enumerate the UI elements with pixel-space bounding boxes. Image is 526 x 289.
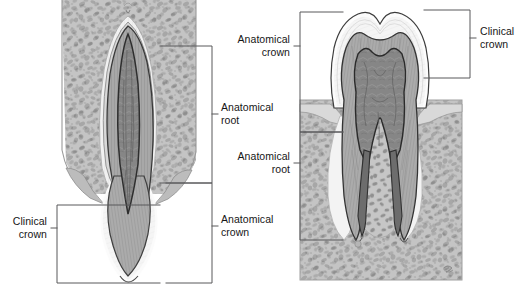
label-right-anatomical-crown: Anatomical crown [224, 33, 290, 58]
label-left-anatomical-root: Anatomical root [221, 101, 293, 126]
label-left-clinical-crown: Clinical crown [0, 215, 47, 240]
right-apical-foramen-mesial [355, 241, 361, 247]
label-right-clinical-crown: Clinical crown [480, 25, 526, 50]
label-left-anatomical-crown: Anatomical crown [221, 213, 293, 238]
label-right-anatomical-root: Anatomical root [224, 150, 290, 175]
figure-canvas: Anatomical root Anatomical crown Clinica… [0, 0, 526, 289]
